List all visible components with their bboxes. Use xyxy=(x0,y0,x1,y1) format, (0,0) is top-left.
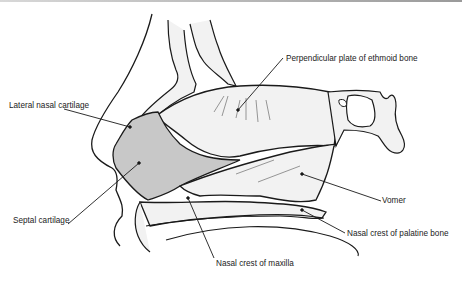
label-nasal-crest-maxilla: Nasal crest of maxilla xyxy=(216,259,294,269)
nasal-septum-illustration xyxy=(0,0,462,286)
label-perpendicular-plate: Perpendicular plate of ethmoid bone xyxy=(286,54,418,64)
frontal-sinus-process xyxy=(190,20,236,86)
label-nasal-crest-palatine: Nasal crest of palatine bone xyxy=(347,229,449,239)
label-septal-cartilage: Septal cartilage xyxy=(13,216,69,226)
oral-curve xyxy=(166,227,358,256)
label-vomer: Vomer xyxy=(382,196,406,206)
label-lateral-nasal-cartilage: Lateral nasal cartilage xyxy=(9,101,89,111)
sphenoid-sinus xyxy=(347,95,375,127)
